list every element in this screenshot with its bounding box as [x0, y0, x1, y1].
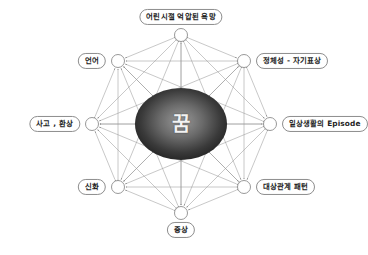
node-label-n3: 대상관계 패턴 [256, 179, 315, 195]
center-ellipse [135, 88, 227, 160]
graph-node-n0[interactable] [175, 29, 188, 42]
graph-edge [95, 131, 115, 179]
graph-node-n2[interactable] [264, 118, 277, 131]
graph-edge [188, 38, 236, 58]
node-label-n1: 정체성 - 자기표상 [256, 53, 328, 69]
node-label-n5: 신화 [78, 179, 106, 195]
center-edge [124, 153, 152, 181]
node-label-n4: 증상 [167, 222, 195, 238]
graph-edge [247, 68, 267, 116]
graph-node-n1[interactable] [238, 55, 251, 68]
center-edge [210, 153, 238, 181]
graph-node-n6[interactable] [86, 118, 99, 131]
graph-node-n3[interactable] [238, 181, 251, 194]
graph-edge [125, 38, 173, 58]
graph-node-n5[interactable] [112, 181, 125, 194]
graph-node-n7[interactable] [112, 55, 125, 68]
node-label-n2: 일상생활의 Episode [282, 116, 368, 132]
center-node-ellipse [135, 88, 227, 160]
center-edge [124, 67, 152, 95]
graph-edge [188, 190, 236, 210]
node-label-n6: 사고 , 환상 [29, 116, 80, 132]
node-label-n7: 언어 [78, 53, 106, 69]
graph-edge [125, 190, 173, 210]
graph-edge [95, 68, 115, 116]
graph-node-n4[interactable] [175, 207, 188, 220]
node-label-n0: 어린시절 억압된 욕망 [139, 9, 222, 25]
center-edge [210, 67, 238, 95]
graph-edge [247, 131, 267, 179]
